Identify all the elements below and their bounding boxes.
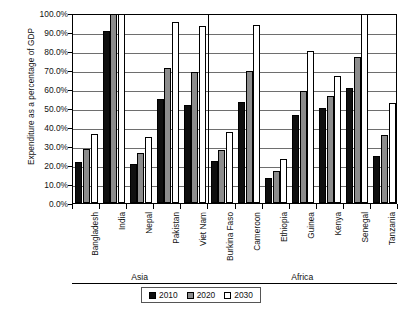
gray-square-icon — [187, 292, 194, 299]
bar — [292, 115, 299, 203]
bar — [191, 72, 198, 203]
bar — [145, 137, 152, 203]
bar — [75, 162, 82, 203]
bar — [238, 102, 245, 203]
white-square-icon — [224, 292, 231, 299]
bar — [265, 178, 272, 203]
region-label: Asia — [72, 272, 207, 282]
legend-item-label: 2030 — [234, 290, 253, 300]
bar — [118, 14, 125, 203]
legend-item-label: 2020 — [197, 290, 216, 300]
x-axis-label: Guinea — [306, 212, 316, 239]
y-tick-label: 60.0% — [12, 86, 68, 94]
chart-legend: 2010 2020 2030 — [141, 287, 261, 303]
bar — [164, 68, 171, 203]
x-tick-mark — [207, 204, 208, 209]
x-tick-mark — [235, 204, 236, 209]
bar — [327, 96, 334, 203]
y-tick-label: 80.0% — [12, 48, 68, 56]
bar — [226, 132, 233, 203]
bar — [300, 91, 307, 203]
x-tick-mark — [99, 204, 100, 209]
bar — [199, 26, 206, 203]
x-axis-label: Nepal — [144, 212, 154, 234]
y-tick-label: 50.0% — [12, 105, 68, 113]
x-tick-mark — [343, 204, 344, 209]
bar — [91, 134, 98, 203]
legend-item: 2020 — [187, 290, 216, 300]
x-tick-mark — [126, 204, 127, 209]
bar — [184, 105, 191, 203]
legend-item-label: 2010 — [159, 290, 178, 300]
bar — [354, 57, 361, 203]
region-label: Africa — [207, 272, 397, 282]
x-tick-mark — [289, 204, 290, 209]
y-tick-label: 20.0% — [12, 162, 68, 170]
black-square-icon — [149, 292, 156, 299]
x-axis-label: Senegal — [360, 212, 370, 242]
x-axis-label: Pakistan — [171, 212, 181, 244]
y-tick-label: 70.0% — [12, 67, 68, 75]
y-tick-label: 90.0% — [12, 29, 68, 37]
region-line — [72, 283, 207, 284]
x-axis-label: Viet Nam — [198, 212, 208, 246]
bar — [381, 135, 388, 203]
bar — [172, 22, 179, 203]
legend-item: 2010 — [149, 290, 178, 300]
plot-area — [72, 14, 397, 204]
bar — [83, 149, 90, 203]
y-tick-label: 40.0% — [12, 124, 68, 132]
group-separator — [208, 15, 209, 203]
x-axis-label: Ethiopia — [279, 212, 289, 242]
bar — [211, 161, 218, 203]
x-tick-mark — [180, 204, 181, 209]
bar — [110, 14, 117, 203]
x-axis-label: India — [117, 212, 127, 230]
y-tick-label: 0.0% — [12, 200, 68, 208]
bar — [103, 31, 110, 203]
bar — [253, 25, 260, 203]
x-tick-mark — [397, 204, 398, 209]
bar — [130, 164, 137, 203]
y-tick-label: 30.0% — [12, 143, 68, 151]
x-axis-label: Tanzania — [387, 212, 397, 245]
region-line — [207, 283, 397, 284]
x-tick-mark — [153, 204, 154, 209]
x-tick-mark — [316, 204, 317, 209]
bar — [307, 51, 314, 203]
bar — [334, 76, 341, 203]
bar — [346, 88, 353, 203]
bar — [157, 99, 164, 204]
bar — [280, 159, 287, 203]
y-tick-label: 10.0% — [12, 181, 68, 189]
bar — [246, 71, 253, 203]
bar-chart: Expenditure as a percentage of GDP 100.0… — [0, 0, 409, 317]
bar — [319, 108, 326, 203]
x-tick-mark — [262, 204, 263, 209]
x-tick-mark — [72, 204, 73, 209]
bar — [389, 103, 396, 203]
bar — [218, 150, 225, 203]
legend-item: 2030 — [224, 290, 253, 300]
bars-layer — [73, 15, 396, 203]
bar — [137, 153, 144, 203]
x-axis-label: Kenya — [333, 212, 343, 236]
x-axis-label: Cameroon — [252, 212, 262, 251]
x-axis-label: Bangladesh — [90, 212, 100, 256]
x-tick-mark — [370, 204, 371, 209]
bar — [273, 171, 280, 203]
bar — [361, 14, 368, 203]
y-tick-label: 100.0% — [12, 10, 68, 18]
x-axis-label: Burkina Faso — [225, 212, 235, 261]
bar — [373, 156, 380, 203]
